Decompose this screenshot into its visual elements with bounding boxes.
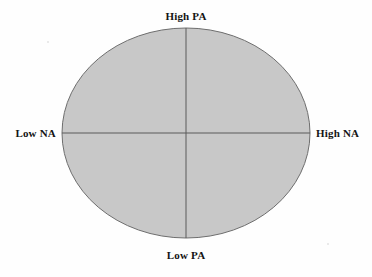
axis-label-high-na: High NA — [316, 127, 372, 140]
affect-circumplex-figure: High PA Low NA High NA Low PA — [0, 0, 372, 277]
axis-label-high-pa: High PA — [0, 10, 372, 23]
scan-artifact-speck — [47, 41, 49, 43]
axis-label-low-na: Low NA — [0, 127, 56, 140]
scan-artifact-speck — [327, 243, 329, 245]
axis-label-low-pa: Low PA — [0, 249, 372, 262]
